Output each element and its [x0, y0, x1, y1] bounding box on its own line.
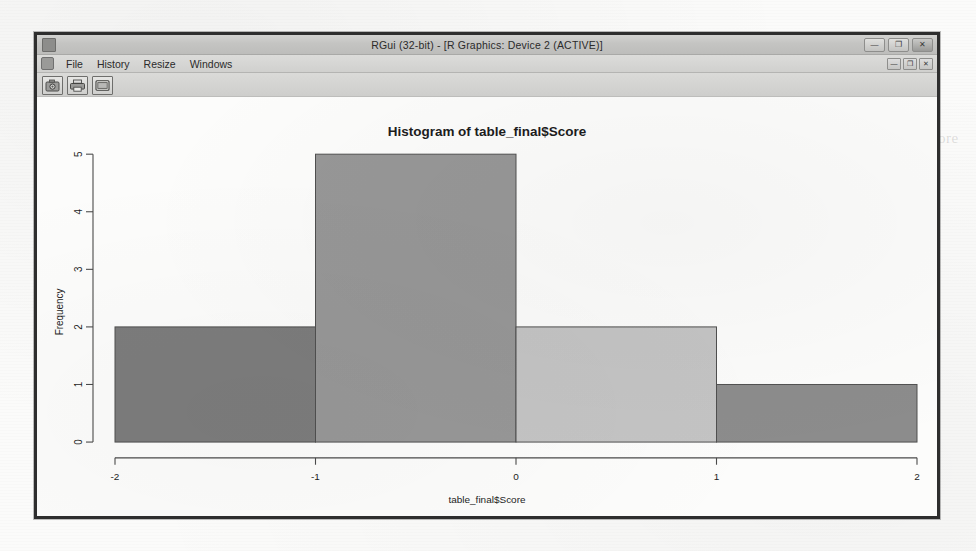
window-controls: — ❐ ✕ [864, 38, 933, 52]
mdi-restore-icon: ❐ [904, 59, 916, 69]
print-button[interactable] [67, 76, 88, 95]
restore-icon: ❐ [889, 39, 908, 51]
histogram-bar [316, 154, 517, 442]
minimize-icon: — [865, 39, 884, 51]
menu-bar: File History Resize Windows — ❐ ✕ [37, 55, 937, 73]
window-title: RGui (32-bit) - [R Graphics: Device 2 (A… [37, 39, 937, 51]
r-graphics-plot-area: Histogram of table_final$Score Frequency… [37, 96, 937, 516]
histogram-bar [717, 384, 918, 442]
window-icon [95, 79, 110, 92]
y-axis-tick-label: 1 [73, 381, 84, 387]
menu-windows[interactable]: Windows [183, 58, 240, 70]
y-axis: 012345 [73, 151, 93, 445]
x-axis-tick-label: -1 [311, 471, 320, 482]
mdi-minimize-button[interactable]: — [887, 58, 901, 70]
mdi-restore-button[interactable]: ❐ [903, 58, 917, 70]
y-axis-tick-label: 3 [73, 266, 84, 272]
menu-history[interactable]: History [90, 58, 137, 70]
system-menu-icon[interactable] [41, 57, 54, 70]
close-icon: ✕ [913, 39, 932, 51]
x-axis-label: table_final$Score [448, 494, 526, 505]
x-axis-tick-label: 1 [714, 471, 720, 482]
y-axis-tick-label: 2 [73, 324, 84, 330]
rgui-window: RGui (32-bit) - [R Graphics: Device 2 (A… [34, 32, 940, 519]
chart-title: Histogram of table_final$Score [388, 125, 587, 140]
histogram-bars [115, 154, 917, 442]
printer-icon [70, 79, 85, 92]
close-button[interactable]: ✕ [912, 38, 933, 52]
mdi-close-icon: ✕ [920, 59, 932, 69]
x-axis-tick-label: 2 [914, 471, 920, 482]
y-axis-tick-label: 0 [73, 439, 84, 445]
histogram-svg: Histogram of table_final$Score Frequency… [37, 97, 937, 516]
x-axis-tick-label: 0 [513, 471, 519, 482]
camera-icon [45, 79, 60, 92]
menu-file[interactable]: File [59, 58, 90, 70]
y-axis-label: Frequency [54, 289, 65, 336]
x-axis-tick-label: -2 [111, 471, 120, 482]
mdi-window-controls: — ❐ ✕ [887, 58, 933, 70]
restore-button[interactable]: ❐ [888, 38, 909, 52]
copy-to-clipboard-button[interactable] [42, 76, 63, 95]
y-axis-tick-label: 4 [73, 209, 84, 215]
x-axis: -2-1012 [111, 458, 921, 482]
minimize-button[interactable]: — [864, 38, 885, 52]
window-title-bar: RGui (32-bit) - [R Graphics: Device 2 (A… [37, 35, 937, 55]
histogram-bar [115, 327, 316, 442]
y-axis-tick-label: 5 [73, 151, 84, 157]
mdi-minimize-icon: — [888, 59, 900, 69]
histogram-bar [516, 327, 717, 442]
mdi-close-button[interactable]: ✕ [919, 58, 933, 70]
menu-resize[interactable]: Resize [137, 58, 183, 70]
new-window-button[interactable] [92, 76, 113, 95]
